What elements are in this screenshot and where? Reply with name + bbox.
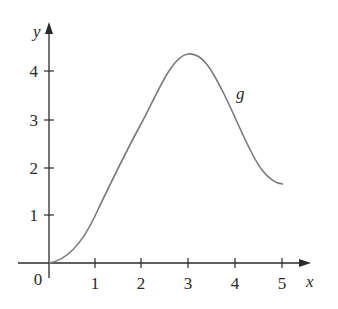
y-tick-label-2: 2 [30, 159, 39, 178]
y-tick-label-4: 4 [30, 62, 39, 81]
x-tick-label-3: 3 [184, 274, 193, 293]
origin-label: 0 [34, 270, 43, 289]
y-tick-label-1: 1 [30, 206, 39, 225]
x-tick-label-4: 4 [231, 274, 240, 293]
y-axis-arrow-icon [45, 22, 53, 34]
y-tick-label-3: 3 [30, 111, 39, 130]
x-tick-label-2: 2 [137, 274, 146, 293]
x-axis-arrow-icon [299, 259, 311, 267]
y-axis-label: y [31, 22, 41, 41]
x-axis-label: x [305, 272, 314, 291]
chart: 1 2 3 4 5 1 2 3 4 0 x y g [0, 0, 338, 309]
curve-label-g: g [236, 84, 245, 103]
x-tick-label-5: 5 [278, 274, 287, 293]
curve-g [49, 54, 283, 263]
x-tick-label-1: 1 [91, 274, 100, 293]
